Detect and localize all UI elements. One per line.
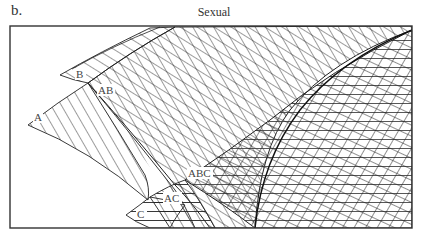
label-abc: ABC <box>188 167 211 179</box>
label-c: C <box>137 208 144 220</box>
venn-hatch-diagram: B AB A ABC AC C <box>0 0 424 243</box>
label-a: A <box>34 111 42 123</box>
label-b: B <box>76 68 83 80</box>
label-ab: AB <box>98 84 113 96</box>
label-ac: AC <box>164 192 179 204</box>
